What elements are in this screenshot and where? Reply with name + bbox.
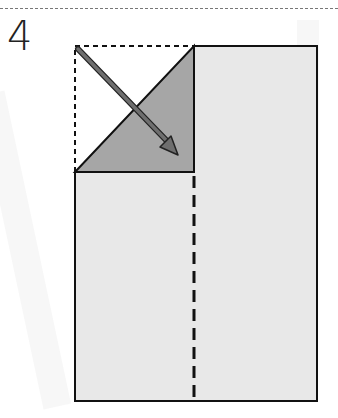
paper-sheet — [75, 46, 317, 401]
origami-fold-diagram — [0, 0, 338, 418]
